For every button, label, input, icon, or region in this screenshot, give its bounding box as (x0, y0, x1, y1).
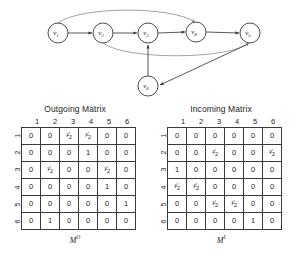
matrix-cell: 0 (117, 145, 136, 162)
matrix-cell: 0 (225, 145, 244, 162)
matrix-cell: 0 (60, 213, 79, 230)
table-row: 0 0 ¹⁄2 0 0 ¹⁄2 (168, 145, 282, 162)
matrix-cell: 0 (41, 128, 60, 145)
outgoing-matrix-block: Outgoing Matrix 1 2 3 4 5 6 1 2 3 4 5 6 … (14, 104, 136, 245)
outgoing-matrix-title: Outgoing Matrix (14, 104, 136, 114)
matrix-cell: 0 (41, 179, 60, 196)
outgoing-matrix-row-headers: 1 2 3 4 5 6 (14, 127, 21, 230)
matrix-cell: 0 (225, 128, 244, 145)
matrix-cell: ¹⁄2 (98, 162, 117, 179)
matrix-cell: 0 (244, 145, 263, 162)
table-row: 0 ¹⁄2 0 0 ¹⁄2 0 (22, 162, 136, 179)
table-row: 0 0 0 0 1 0 (22, 179, 136, 196)
incoming-matrix-col-headers: 1 2 3 4 5 6 (174, 117, 282, 127)
table-row: 0 0 ¹⁄2 ¹⁄2 0 0 (22, 128, 136, 145)
col-header: 3 (210, 117, 228, 127)
matrix-cell: 1 (98, 179, 117, 196)
matrix-cell: 0 (187, 162, 206, 179)
matrix-cell: 0 (225, 213, 244, 230)
table-row: 0 0 0 0 1 0 (168, 213, 282, 230)
matrix-cell: 0 (263, 213, 282, 230)
matrix-cell: 0 (244, 128, 263, 145)
matrix-cell: 0 (79, 162, 98, 179)
matrix-cell: ¹⁄2 (263, 145, 282, 162)
row-header: 5 (155, 201, 172, 208)
incoming-matrix-block: Incoming Matrix 1 2 3 4 5 6 1 2 3 4 5 6 … (160, 104, 282, 245)
matrix-cell: ¹⁄2 (41, 162, 60, 179)
matrix-cell: ¹⁄2 (60, 128, 79, 145)
matrix-cell: 0 (187, 128, 206, 145)
matrix-cell: 0 (263, 196, 282, 213)
table-row: 0 0 0 1 0 0 (22, 145, 136, 162)
col-header: 1 (174, 117, 192, 127)
edge-v4-v5 (206, 32, 239, 33)
node-v6[interactable]: v6 (138, 76, 158, 96)
row-header: 5 (9, 201, 26, 208)
matrix-cell: 0 (263, 179, 282, 196)
row-header: 4 (9, 184, 26, 191)
col-header: 6 (118, 117, 136, 127)
row-header: 2 (9, 149, 26, 156)
edge-v1-v4-curve (58, 10, 195, 23)
matrix-cell: 0 (206, 162, 225, 179)
matrix-cell: 0 (41, 196, 60, 213)
col-header: 2 (192, 117, 210, 127)
graph-panel: v1 v2 v3 v4 v5 v6 (0, 0, 296, 100)
incoming-matrix-title: Incoming Matrix (160, 104, 282, 114)
node-v5[interactable]: v5 (240, 23, 260, 43)
outgoing-matrix-col-headers: 1 2 3 4 5 6 (28, 117, 136, 127)
matrix-cell: ¹⁄2 (187, 179, 206, 196)
matrix-cell: 0 (187, 196, 206, 213)
matrix-cell: 0 (98, 213, 117, 230)
col-header: 4 (228, 117, 246, 127)
matrix-cell: 0 (79, 179, 98, 196)
row-header: 4 (155, 184, 172, 191)
outgoing-matrix-caption: MO (14, 234, 136, 245)
row-header: 6 (9, 218, 26, 225)
node-v4[interactable]: v4 (186, 22, 206, 42)
col-header: 6 (264, 117, 282, 127)
incoming-matrix-row-headers: 1 2 3 4 5 6 (160, 127, 167, 230)
table-row: 0 0 0 0 0 0 (168, 128, 282, 145)
matrix-cell: 0 (98, 196, 117, 213)
matrix-cell: 0 (206, 213, 225, 230)
graph-svg: v1 v2 v3 v4 v5 v6 (0, 0, 296, 100)
matrix-cell: 1 (244, 213, 263, 230)
matrix-cell: 0 (117, 128, 136, 145)
matrix-cell: 0 (117, 213, 136, 230)
row-header: 6 (155, 218, 172, 225)
caption-superscript: I (223, 234, 225, 240)
matrix-cell: 0 (263, 128, 282, 145)
outgoing-matrix-grid: 0 0 ¹⁄2 ¹⁄2 0 0 0 0 0 1 0 0 (21, 127, 136, 230)
matrix-cell: 1 (79, 145, 98, 162)
row-header: 1 (9, 132, 26, 139)
table-row: 1 0 0 0 0 0 (168, 162, 282, 179)
row-header: 2 (155, 149, 172, 156)
matrix-cell: 1 (117, 196, 136, 213)
matrix-cell: 0 (244, 196, 263, 213)
matrix-cell: 0 (41, 145, 60, 162)
matrix-cell: 0 (244, 179, 263, 196)
incoming-matrix-caption: MI (160, 234, 282, 245)
table-row: 0 1 0 0 0 0 (22, 213, 136, 230)
col-header: 4 (82, 117, 100, 127)
matrix-cell: ¹⁄2 (206, 145, 225, 162)
matrix-cell: 0 (263, 162, 282, 179)
caption-superscript: O (76, 234, 80, 240)
col-header: 2 (46, 117, 64, 127)
matrix-cell: 0 (206, 128, 225, 145)
node-v1[interactable]: v1 (48, 23, 68, 43)
matrix-cell: 0 (60, 145, 79, 162)
matrix-cell: 0 (206, 179, 225, 196)
col-header: 1 (28, 117, 46, 127)
matrix-cell: 0 (60, 179, 79, 196)
matrix-cell: 0 (79, 196, 98, 213)
table-row: 0 0 0 0 0 1 (22, 196, 136, 213)
matrix-cell: 1 (41, 213, 60, 230)
node-v2[interactable]: v2 (93, 23, 113, 43)
matrix-cell: 0 (60, 196, 79, 213)
matrix-cell: 0 (79, 213, 98, 230)
matrix-cell: ¹⁄2 (79, 128, 98, 145)
matrix-cell: 0 (225, 162, 244, 179)
node-v3[interactable]: v3 (138, 23, 158, 43)
